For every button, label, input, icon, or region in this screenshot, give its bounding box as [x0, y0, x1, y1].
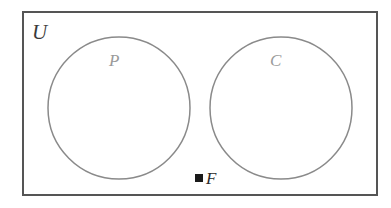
element-f-label: F [206, 170, 216, 187]
element-f-square-marker [195, 174, 203, 182]
universal-set-rectangle [23, 12, 377, 195]
universal-set-label: U [32, 22, 47, 43]
set-p-label: P [109, 52, 119, 69]
venn-diagram-figure: U P C F [0, 0, 391, 208]
set-c-label: C [270, 52, 281, 69]
